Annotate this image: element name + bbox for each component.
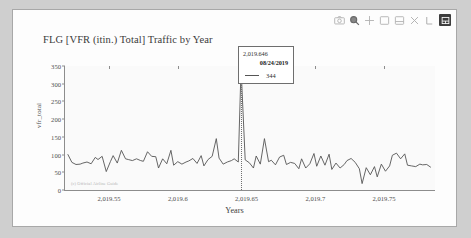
zoom-icon[interactable] — [349, 15, 360, 26]
y-axis-tick: 300 — [51, 80, 61, 87]
x-axis-tickmark — [384, 66, 385, 69]
plot-toolbar — [334, 13, 451, 27]
watermark-text: (c) Official Airline Guide — [71, 181, 118, 186]
autoscale-icon[interactable] — [424, 15, 435, 26]
tooltip-date: 08/24/2019 — [243, 58, 288, 67]
lasso-icon[interactable] — [394, 15, 405, 26]
tooltip-series-swatch — [245, 75, 259, 76]
pan-icon[interactable] — [364, 15, 375, 26]
x-axis-tick: 2,019.55 — [97, 195, 120, 202]
y-axis-tick: 0 — [58, 187, 61, 194]
chart-card: FLG [VFR (itin.) Total] Traffic by Year … — [12, 9, 457, 227]
x-axis-tick: 2,019.6 — [168, 195, 188, 202]
x-axis-tick: 2,019.75 — [373, 195, 396, 202]
x-axis-title: Years — [13, 206, 456, 215]
y-axis-tick: 250 — [51, 98, 61, 105]
camera-icon[interactable] — [334, 15, 345, 26]
x-axis-tickmark — [109, 66, 110, 69]
x-axis-tick: 2,019.7 — [305, 195, 325, 202]
hover-tooltip: 2,019.646 08/24/2019 344 — [238, 46, 294, 84]
y-axis-tick: 200 — [51, 116, 61, 123]
reset-axes-icon[interactable] — [439, 14, 451, 26]
y-axis-tickmark — [62, 119, 65, 120]
x-axis-tickmark — [315, 66, 316, 69]
y-axis-tickmark — [62, 101, 65, 102]
plot-area[interactable]: (c) Official Airline Guide 0501001502002… — [64, 66, 435, 191]
y-axis-tickmark — [62, 172, 65, 173]
y-axis-tickmark — [62, 190, 65, 191]
app-root: FLG [VFR (itin.) Total] Traffic by Year … — [0, 0, 471, 238]
zoom-out-icon[interactable] — [409, 15, 420, 26]
x-axis-tick: 2,019.65 — [235, 195, 258, 202]
hover-cursor-line — [241, 66, 242, 190]
tooltip-value-row: 344 — [243, 72, 288, 79]
chart-title: FLG [VFR (itin.) Total] Traffic by Year — [43, 34, 213, 45]
tooltip-x-value: 2,019.646 — [243, 50, 288, 58]
tooltip-value: 344 — [266, 72, 276, 79]
y-axis-tick: 100 — [51, 151, 61, 158]
y-axis-tick: 150 — [51, 133, 61, 140]
y-axis-tickmark — [62, 136, 65, 137]
y-axis-tick: 350 — [51, 63, 61, 70]
series-line — [65, 66, 436, 191]
zoom-in-box-icon[interactable] — [379, 15, 390, 26]
y-axis-tickmark — [62, 83, 65, 84]
y-axis-tickmark — [62, 154, 65, 155]
x-axis-tickmark — [178, 66, 179, 69]
y-axis-title: vfr_total — [35, 103, 42, 128]
y-axis-tickmark — [62, 66, 65, 67]
y-axis-tick: 50 — [54, 169, 61, 176]
